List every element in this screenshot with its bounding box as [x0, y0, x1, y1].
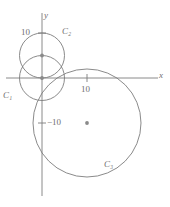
center-dot-c1: [40, 76, 44, 80]
center-dot-c3: [85, 121, 89, 125]
figure-canvas: y x 10 10 −10 C₁ C₂ C₃: [0, 0, 170, 207]
curve-label-c3: C₃: [104, 160, 113, 169]
center-dot-c2: [40, 54, 44, 58]
curves-group: [20, 33, 142, 177]
axis-group: [6, 13, 158, 196]
curve-label-c2: C₂: [62, 27, 71, 36]
y-tick-label-10: 10: [21, 28, 30, 37]
curve-label-c1: C₁: [3, 91, 12, 100]
y-tick-label-minus-10: −10: [47, 118, 61, 127]
x-tick-label-10: 10: [81, 85, 90, 94]
y-axis-label: y: [44, 11, 48, 20]
x-axis-label: x: [159, 71, 163, 80]
